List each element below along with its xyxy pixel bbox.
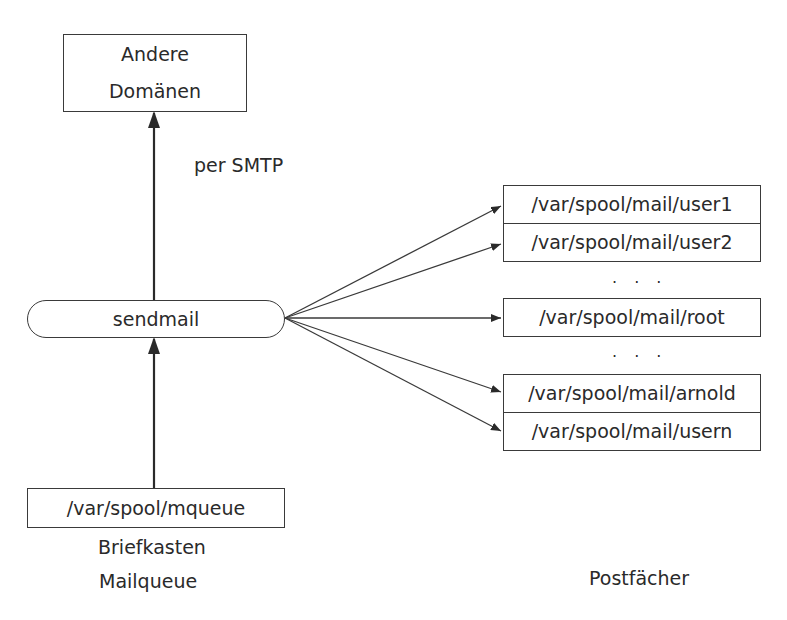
other-domains-line2: Domänen (109, 73, 201, 110)
mailbox-label: /var/spool/mail/usern (532, 422, 733, 441)
postfaecher-caption: Postfächer (589, 567, 689, 589)
mailbox-label: /var/spool/mail/user2 (531, 233, 732, 252)
mqueue-label: /var/spool/mqueue (67, 499, 245, 518)
sendmail-label: sendmail (113, 310, 199, 329)
ellipsis-upper: . . . (612, 268, 667, 287)
mailbox-user1: /var/spool/mail/user1 (503, 185, 761, 224)
mailbox-label: /var/spool/mail/user1 (531, 195, 732, 214)
mailbox-label: /var/spool/mail/arnold (528, 384, 736, 403)
mailbox-usern: /var/spool/mail/usern (503, 412, 761, 451)
other-domains-line1: Andere (121, 36, 189, 73)
mailqueue-caption: Mailqueue (99, 570, 197, 592)
smtp-label: per SMTP (194, 154, 283, 176)
mailbox-root: /var/spool/mail/root (503, 298, 761, 337)
ellipsis-lower: . . . (612, 342, 667, 361)
mailbox-arnold: /var/spool/mail/arnold (503, 374, 761, 413)
mqueue-box: /var/spool/mqueue (27, 488, 285, 528)
sendmail-node: sendmail (27, 300, 285, 338)
other-domains-box: Andere Domänen (63, 34, 247, 112)
briefkasten-caption: Briefkasten (98, 536, 206, 558)
mailbox-user2: /var/spool/mail/user2 (503, 223, 761, 262)
mailbox-label: /var/spool/mail/root (539, 308, 725, 327)
